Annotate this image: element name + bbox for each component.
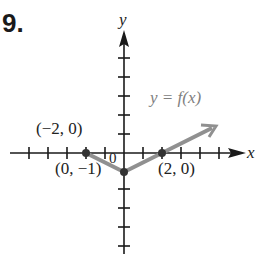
point-2-0 [158, 149, 166, 157]
y-axis-label: y [119, 10, 127, 30]
point-label-neg2-0: (−2, 0) [36, 119, 82, 139]
point-label-0-neg1: (0, −1) [55, 159, 101, 179]
point-0-neg1 [120, 168, 128, 176]
x-axis-label: x [247, 143, 255, 163]
point-label-2-0: (2, 0) [158, 159, 195, 179]
point-neg2-0 [82, 149, 90, 157]
function-label: y = f(x) [150, 88, 201, 108]
origin-label: 0 [109, 150, 117, 167]
y-axis [118, 38, 130, 254]
